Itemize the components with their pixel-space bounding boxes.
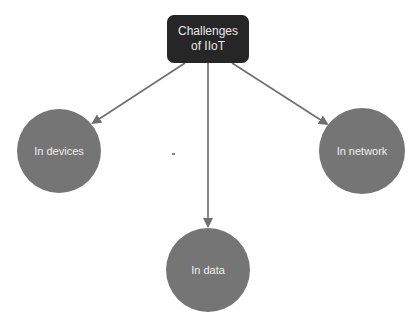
stray-mark — [172, 153, 175, 155]
node-in-network: In network — [319, 108, 405, 194]
node-in-devices: In devices — [17, 109, 101, 193]
root-label-line2: of IIoT — [191, 39, 225, 54]
node-label: In devices — [34, 145, 84, 157]
arrow-to-devices — [93, 63, 185, 123]
node-in-data: In data — [166, 228, 250, 312]
root-node: Challenges of IIoT — [167, 15, 249, 63]
root-label-line1: Challenges — [178, 24, 238, 39]
arrow-to-network — [232, 63, 327, 124]
node-label: In data — [191, 264, 225, 276]
node-label: In network — [337, 145, 388, 157]
